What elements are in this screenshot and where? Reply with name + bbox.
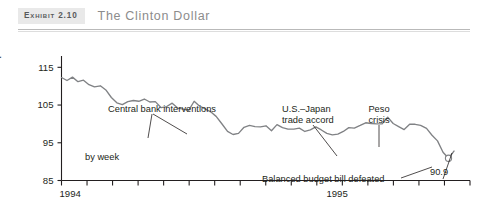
x-tick-label: 1995 bbox=[326, 188, 347, 199]
y-axis-label: Yen per dollar bbox=[0, 0, 1, 108]
exhibit-title: The Clinton Dollar bbox=[98, 10, 211, 23]
annotation-central-bank-interventions: Central bank interventions bbox=[108, 104, 216, 114]
leader-line-cbi-left bbox=[148, 114, 152, 138]
header-divider-shadow bbox=[18, 31, 470, 32]
chart-area: Yen per dollar 8595105115 19941995 bbox=[0, 34, 488, 204]
annotation-us-japan-line1: U.S.–Japan bbox=[282, 104, 331, 114]
x-tick-label: 1994 bbox=[60, 188, 82, 199]
annotation-us-japan-line2: trade accord bbox=[282, 115, 334, 125]
annotation-balanced-budget: Balanced budget bill defeated bbox=[262, 174, 385, 184]
annotation-endpoint-value: 90.9 bbox=[430, 167, 448, 177]
by-week-note: by week bbox=[85, 152, 119, 162]
exhibit-header: Exhibit 2.10 The Clinton Dollar bbox=[18, 8, 210, 24]
line-chart-svg: 8595105115 19941995 Central bank interve… bbox=[0, 34, 488, 204]
annotation-peso-line1: Peso bbox=[368, 104, 389, 114]
yen-per-dollar-line bbox=[62, 77, 455, 158]
exhibit-figure: Exhibit 2.10 The Clinton Dollar Yen per … bbox=[0, 0, 488, 204]
y-tick-label: 105 bbox=[37, 99, 53, 110]
x-axis-tick-labels: 19941995 bbox=[60, 188, 348, 199]
annotation-peso-line2: crisis bbox=[368, 115, 390, 125]
y-axis-tick-labels: 8595105115 bbox=[37, 62, 53, 186]
exhibit-number-badge: Exhibit 2.10 bbox=[18, 8, 85, 24]
y-axis-ticks bbox=[58, 67, 62, 180]
leader-line-budget-bill bbox=[401, 167, 432, 178]
y-tick-label: 85 bbox=[43, 175, 54, 186]
leader-line-cbi-right bbox=[153, 114, 187, 134]
y-tick-label: 95 bbox=[43, 137, 54, 148]
y-tick-label: 115 bbox=[38, 62, 53, 73]
leader-line-trade-accord bbox=[313, 125, 337, 156]
